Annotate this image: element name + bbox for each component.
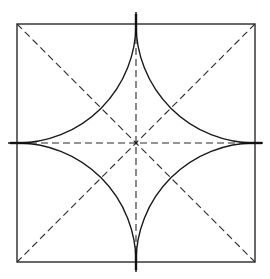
star-diagram xyxy=(0,0,270,279)
center-point xyxy=(135,142,138,145)
